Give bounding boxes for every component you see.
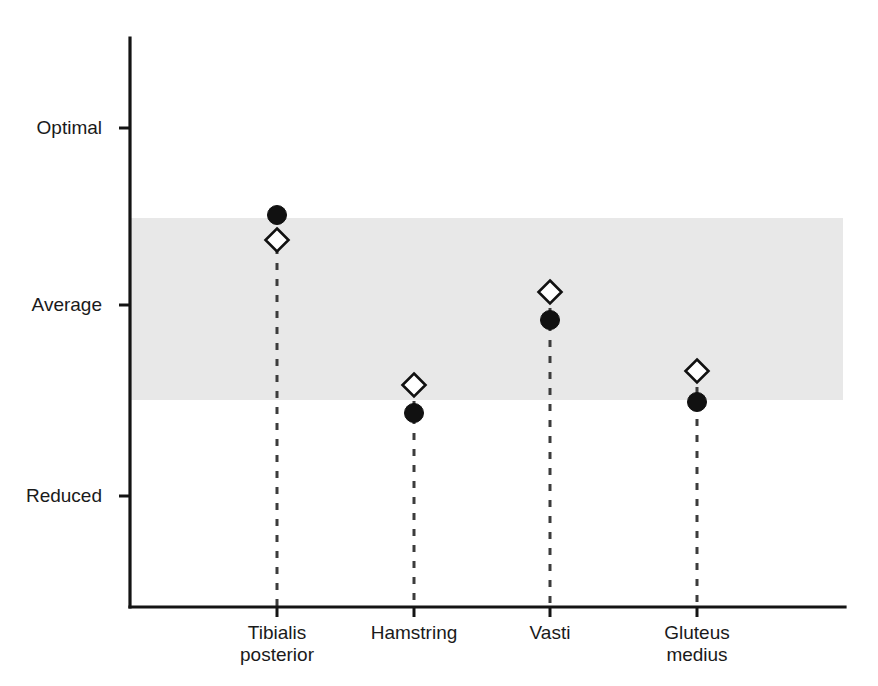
x-axis-label-line: posterior xyxy=(240,644,315,665)
data-marker-filled-circle xyxy=(268,206,287,225)
x-axis-category-label: Tibialisposterior xyxy=(240,622,315,665)
data-marker-filled-circle xyxy=(541,311,560,330)
x-axis-label-line: Tibialis xyxy=(248,622,306,643)
x-axis-category-label: Gluteusmedius xyxy=(664,622,729,665)
chart-canvas: OptimalAverageReduced TibialisposteriorH… xyxy=(0,0,878,686)
y-axis-tick-label: Optimal xyxy=(37,117,102,138)
x-axis-category-label: Hamstring xyxy=(371,622,458,643)
x-axis-label-line: Hamstring xyxy=(371,622,458,643)
y-axis-tick-label: Average xyxy=(32,294,102,315)
data-marker-filled-circle xyxy=(405,404,424,423)
muscle-function-scatter-chart: OptimalAverageReduced TibialisposteriorH… xyxy=(0,0,878,686)
y-axis-tick-label: Reduced xyxy=(26,485,102,506)
average-range-band xyxy=(130,218,843,400)
data-marker-filled-circle xyxy=(688,393,707,412)
x-axis-label-line: Gluteus xyxy=(664,622,729,643)
x-axis-label-line: Vasti xyxy=(530,622,571,643)
x-axis-category-label: Vasti xyxy=(530,622,571,643)
x-axis-label-line: medius xyxy=(666,644,727,665)
